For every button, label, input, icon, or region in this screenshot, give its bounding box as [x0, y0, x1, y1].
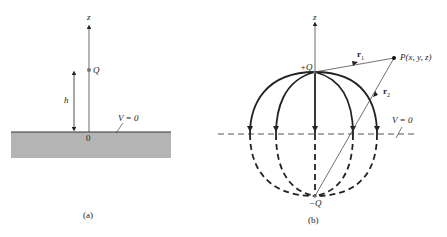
panel-b [218, 24, 418, 198]
plane-label-leader-b [396, 127, 402, 138]
r2-label: r2 [383, 87, 390, 98]
charge-q-label: Q [93, 66, 100, 75]
field-line-outer-left [250, 72, 315, 134]
r1-label: r1 [357, 50, 364, 61]
neg-charge-label: −Q [309, 199, 322, 208]
field-line-inner-right [315, 72, 353, 134]
image-charges-figure: z Q h 0 V = 0 (a) z +Q −Q P(x, y, z) r1 … [0, 0, 447, 237]
point-p-dot [392, 56, 396, 60]
field-line-outer-right [315, 72, 377, 134]
z-axis-label-a: z [87, 13, 91, 22]
z-axis-label-b: z [313, 13, 317, 22]
field-arrowheads [247, 126, 380, 132]
caption-b: (b) [308, 216, 319, 225]
height-label: h [64, 96, 69, 105]
r1-vector [315, 58, 394, 72]
field-line-inner-left [276, 72, 315, 134]
image-field-lines [250, 134, 377, 196]
plane-label-a: V = 0 [118, 114, 138, 123]
panel-a [11, 27, 171, 158]
ground-plane [11, 132, 171, 158]
plane-label-b: V = 0 [392, 116, 412, 125]
origin-label: 0 [86, 134, 91, 143]
caption-a: (a) [83, 211, 93, 220]
r2-vector [315, 58, 394, 196]
charge-q-dot [87, 68, 91, 72]
point-p-label: P(x, y, z) [400, 53, 432, 62]
figure-graphics [0, 0, 447, 237]
pos-charge-label: +Q [300, 63, 313, 72]
